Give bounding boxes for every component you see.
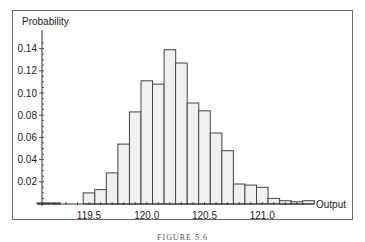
x-axis-label: Output [316,199,346,210]
histogram-bar [153,84,165,204]
y-tick-label: 0.10 [18,88,38,99]
x-axis: 119.5120.0120.5121.0 [38,202,314,221]
histogram-bar [257,187,269,204]
histogram-bars [37,50,314,204]
histogram-bar [141,81,153,204]
histogram-bar [199,111,211,204]
y-axis: 0.020.040.060.080.100.120.14 [18,30,44,206]
figure-caption: FIGURE 5.6 [0,233,365,242]
histogram-bar [106,173,118,204]
histogram-bar [176,63,188,204]
histogram-bar [233,184,245,204]
histogram-bar [245,185,257,204]
histogram-chart: 0.020.040.060.080.100.120.14 119.5120.01… [0,0,365,242]
histogram-bar [164,50,176,204]
histogram-bar [129,112,141,204]
histogram-bar [95,190,107,204]
histogram-bar [210,133,222,204]
y-tick-label: 0.14 [18,43,38,54]
histogram-bar [118,144,130,204]
y-axis-label: Probability [22,16,69,27]
y-tick-label: 0.12 [18,65,38,76]
x-tick-label: 121.0 [250,210,275,221]
y-tick-label: 0.06 [18,132,38,143]
y-tick-label: 0.08 [18,110,38,121]
histogram-bar [187,103,199,204]
histogram-bar [222,151,234,204]
x-tick-label: 119.5 [77,210,102,221]
y-tick-label: 0.04 [18,154,38,165]
y-tick-label: 0.02 [18,176,38,187]
x-tick-label: 120.5 [192,210,217,221]
x-tick-label: 120.0 [134,210,159,221]
